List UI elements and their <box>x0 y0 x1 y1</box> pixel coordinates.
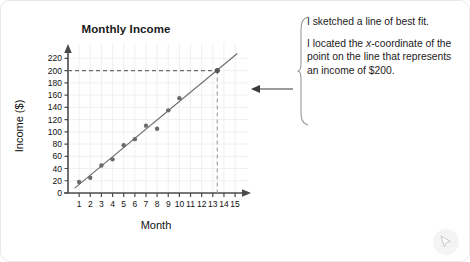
scatter-plot: 020406080100120140160180200220 123456789… <box>1 1 291 241</box>
x-axis-label: Month <box>141 219 172 231</box>
svg-text:180: 180 <box>48 78 62 88</box>
annotation-text: I sketched a line of best fit. I located… <box>307 15 463 77</box>
svg-text:20: 20 <box>53 176 63 186</box>
svg-text:4: 4 <box>110 199 115 209</box>
svg-text:220: 220 <box>48 53 62 63</box>
svg-text:200: 200 <box>48 66 62 76</box>
svg-text:160: 160 <box>48 90 62 100</box>
svg-text:1: 1 <box>77 199 82 209</box>
svg-text:80: 80 <box>53 139 63 149</box>
plot-background <box>63 43 248 193</box>
svg-text:8: 8 <box>155 199 160 209</box>
chart-panel: Monthly Income 0204060801001201401601802… <box>1 1 291 241</box>
cursor-badge[interactable] <box>433 229 459 255</box>
highlight-point-marker <box>215 68 220 73</box>
svg-text:0: 0 <box>57 188 62 198</box>
svg-text:5: 5 <box>121 199 126 209</box>
cursor-pointer-icon <box>439 235 453 249</box>
svg-text:3: 3 <box>99 199 104 209</box>
svg-text:15: 15 <box>230 199 240 209</box>
svg-text:10: 10 <box>175 199 185 209</box>
svg-text:14: 14 <box>219 199 229 209</box>
svg-text:120: 120 <box>48 115 62 125</box>
svg-text:6: 6 <box>132 199 137 209</box>
annotation-line-2-part-1: I located the <box>307 38 366 49</box>
y-axis-label: Income ($) <box>13 100 25 153</box>
left-arrow-icon <box>249 81 293 97</box>
svg-text:11: 11 <box>186 199 195 209</box>
svg-text:9: 9 <box>166 199 171 209</box>
svg-text:7: 7 <box>144 199 149 209</box>
svg-text:2: 2 <box>88 199 93 209</box>
svg-text:140: 140 <box>48 102 62 112</box>
annotation-line-2: I located the x-coordinate of the point … <box>307 37 463 77</box>
svg-text:13: 13 <box>208 199 218 209</box>
y-axis-tick-labels: 020406080100120140160180200220 <box>48 53 62 198</box>
x-axis-tick-labels: 123456789101112131415 <box>77 199 240 209</box>
svg-text:60: 60 <box>53 151 63 161</box>
svg-text:12: 12 <box>197 199 207 209</box>
annotation-panel: I sketched a line of best fit. I located… <box>297 15 465 127</box>
lesson-card: Monthly Income 0204060801001201401601802… <box>0 0 470 262</box>
svg-text:40: 40 <box>53 164 63 174</box>
annotation-line-1: I sketched a line of best fit. <box>307 15 463 28</box>
svg-text:100: 100 <box>48 127 62 137</box>
